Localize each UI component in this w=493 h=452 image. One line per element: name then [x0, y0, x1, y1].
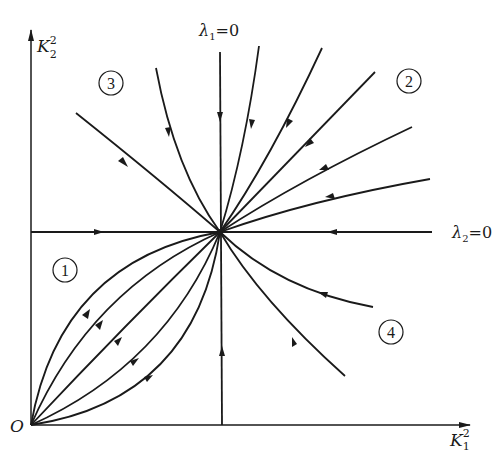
- region-marker-3: 3: [99, 71, 123, 95]
- region-marker-2: 2: [397, 69, 421, 93]
- svg-text:1: 1: [61, 262, 69, 279]
- direction-arrows: [82, 112, 337, 382]
- lambda1-zero-label: λ1=0: [198, 21, 239, 42]
- region-marker-4: 4: [379, 320, 403, 344]
- svg-text:4: 4: [387, 324, 395, 341]
- trajectory-region4-a: [220, 232, 373, 307]
- region-marker-1: 1: [53, 258, 77, 282]
- origin-label: O: [10, 416, 24, 436]
- trajectory-region1-c: [31, 232, 220, 425]
- trajectory-region2-d: [220, 127, 412, 232]
- x-axis-label: K21: [449, 427, 470, 452]
- y-axis-label: K22: [36, 34, 57, 61]
- svg-text:3: 3: [107, 75, 115, 92]
- trajectory-region3-a: [76, 113, 220, 232]
- lambda2-zero-label: λ2=0: [451, 223, 492, 244]
- lambda1-zero-line: [220, 52, 222, 425]
- trajectory-region3-b: [156, 68, 220, 232]
- trajectory-region2-e: [220, 179, 430, 232]
- trajectory-region2-b: [220, 48, 322, 232]
- svg-text:2: 2: [405, 73, 413, 90]
- trajectory-region4-b: [220, 232, 345, 376]
- phase-portrait-diagram: K22 K21 O λ1=0 λ2=0 1 2 3 4: [0, 0, 493, 452]
- equilibrium-point: [217, 229, 223, 235]
